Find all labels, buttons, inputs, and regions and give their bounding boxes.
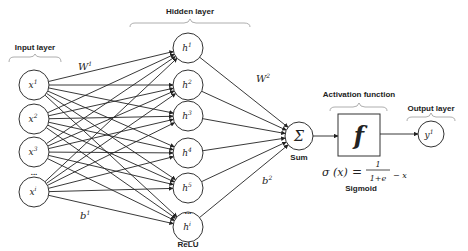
w2-label: W2 (256, 72, 270, 84)
connection-edge (49, 188, 173, 191)
relu-label: ReLU (178, 240, 199, 249)
connection-edge (202, 142, 287, 182)
svg-text:σ (x): σ (x) (322, 166, 348, 179)
b1-label: b1 (80, 209, 90, 221)
activation-function-box: f (338, 114, 380, 156)
connection-edge (49, 195, 174, 223)
hidden-node: h5 (173, 173, 203, 203)
input-layer: x1x2x3xi (19, 70, 49, 207)
hidden-node: h2 (173, 70, 203, 100)
input-hidden-connections (45, 52, 177, 224)
output-node: y1 (418, 121, 444, 147)
hidden-node: h4 (173, 138, 203, 168)
hidden-ellipsis: ... (185, 207, 192, 216)
connection-edge (48, 54, 175, 112)
input-node: xi (19, 177, 49, 207)
sum-node: Σ (285, 122, 313, 150)
connection-edge (203, 138, 285, 151)
sum-label: Sum (290, 153, 307, 162)
activation-function-label: Activation function (323, 90, 396, 99)
connection-edge (49, 88, 174, 116)
connection-edge (49, 52, 174, 82)
connection-edge (46, 56, 175, 143)
input-layer-brace (9, 54, 61, 62)
connection-edge (46, 128, 175, 219)
input-node: x3 (19, 137, 49, 167)
connection-edge (47, 123, 174, 186)
hidden-node: h3 (173, 101, 203, 131)
output-layer-brace (407, 113, 455, 121)
neural-network-diagram: Input layer Hidden layer Activation func… (0, 0, 468, 251)
connection-edge (49, 152, 173, 153)
hidden-layer-brace (130, 19, 250, 27)
sigmoid-formula: σ (x) = 1 1+e − x (322, 160, 407, 183)
connection-edge (46, 93, 175, 179)
svg-text:− x: − x (393, 171, 407, 180)
hidden-layer-label: Hidden layer (166, 7, 214, 16)
connection-edge (200, 145, 289, 218)
b2-label: b2 (262, 174, 272, 186)
hidden-sum-connections (200, 57, 289, 217)
connection-edge (49, 155, 174, 184)
connection-edge (202, 91, 287, 130)
connection-edge (200, 57, 288, 127)
svg-text:=: = (352, 165, 362, 179)
hidden-node: h1 (173, 33, 203, 63)
input-node: x1 (19, 70, 49, 100)
svg-text:1+e: 1+e (370, 174, 387, 183)
input-ellipsis: ... (31, 168, 38, 177)
connection-edge (49, 122, 174, 150)
sigma-sum-icon: Σ (293, 128, 304, 144)
input-layer-label: Input layer (15, 43, 55, 52)
sigmoid-label: Sigmoid (345, 184, 377, 193)
connection-edge (45, 58, 177, 182)
hidden-node: hi (173, 212, 203, 242)
connection-edge (47, 159, 174, 221)
output-layer-label: Output layer (407, 104, 454, 113)
svg-text:1: 1 (375, 160, 380, 169)
input-node: x2 (19, 104, 49, 134)
w1-label: W1 (78, 60, 92, 72)
connection-edge (203, 119, 285, 134)
activation-brace (330, 103, 387, 111)
